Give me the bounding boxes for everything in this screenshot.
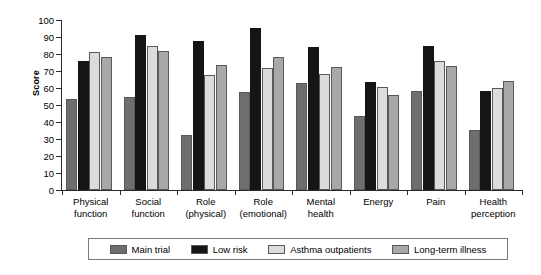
bar [204, 75, 215, 190]
y-axis-tick-label: 10 [32, 168, 54, 179]
bar [423, 46, 434, 191]
x-axis-tick [407, 190, 408, 195]
bar [66, 99, 77, 190]
x-axis-tick [235, 190, 236, 195]
bar [308, 47, 319, 190]
x-axis-tick-label: Energy [350, 196, 408, 208]
x-axis-tick [62, 190, 63, 195]
y-axis-tick-label: 20 [32, 151, 54, 162]
y-axis-tick [56, 54, 62, 55]
legend-swatch-icon [191, 245, 208, 254]
x-axis-tick-label: Health perception [465, 196, 523, 220]
legend-swatch-icon [110, 245, 127, 254]
y-axis-tick-label: 50 [32, 100, 54, 111]
y-axis-tick-label: 40 [32, 117, 54, 128]
bar [377, 87, 388, 190]
bar-group [124, 20, 170, 190]
x-axis-tick-label: Social function [120, 196, 178, 220]
y-axis-tick [56, 105, 62, 106]
grouped-bar-chart: Score 1009080706050403020100 Physical fu… [0, 0, 541, 275]
chart-legend: Main trialLow riskAsthma outpatientsLong… [88, 238, 508, 260]
bar [411, 91, 422, 190]
bar [492, 88, 503, 190]
bar [503, 81, 514, 190]
bar-group [354, 20, 400, 190]
bar [273, 57, 284, 190]
x-axis-tick-label: Role (emotional) [235, 196, 293, 220]
y-axis-tick-label: 30 [32, 134, 54, 145]
x-axis-tick [177, 190, 178, 195]
x-axis-tick [120, 190, 121, 195]
x-axis-tick-label: Mental health [292, 196, 350, 220]
legend-swatch-icon [268, 245, 285, 254]
y-axis-tick-label: 80 [32, 49, 54, 60]
y-axis-tick [56, 156, 62, 157]
x-axis-labels: Physical functionSocial functionRole (ph… [62, 196, 522, 234]
bar [480, 91, 491, 190]
bar [365, 82, 376, 190]
bar [124, 97, 135, 190]
legend-label: Asthma outpatients [290, 244, 371, 255]
x-axis-tick [350, 190, 351, 195]
bar [388, 95, 399, 190]
legend-label: Low risk [213, 244, 248, 255]
bar [250, 28, 261, 190]
bar [89, 52, 100, 190]
x-axis-tick [292, 190, 293, 195]
y-axis-tick-label: 100 [32, 15, 54, 26]
bar [216, 65, 227, 190]
bar [147, 46, 158, 191]
bar [193, 41, 204, 190]
bar-group [411, 20, 457, 190]
bar-group [66, 20, 112, 190]
bar [354, 116, 365, 190]
bar-group [469, 20, 515, 190]
y-axis-tick [56, 20, 62, 21]
y-axis-tick [56, 139, 62, 140]
y-axis-tick [56, 37, 62, 38]
y-axis-tick-label: 60 [32, 83, 54, 94]
bar [78, 61, 89, 190]
bar [319, 74, 330, 190]
bar [262, 68, 273, 190]
bar [296, 83, 307, 190]
bar [331, 67, 342, 190]
y-axis-tick [56, 71, 62, 72]
y-axis-tick-label: 90 [32, 32, 54, 43]
bar-group [296, 20, 342, 190]
y-axis-tick-label: 70 [32, 66, 54, 77]
x-axis-tick-label: Pain [407, 196, 465, 208]
bar-group [181, 20, 227, 190]
bar [434, 61, 445, 190]
x-axis-tick [465, 190, 466, 195]
legend-item: Main trial [110, 244, 171, 255]
y-axis-tick-label: 0 [32, 185, 54, 196]
x-axis-tick [522, 190, 523, 195]
y-axis-tick [56, 122, 62, 123]
bar [181, 135, 192, 190]
bar [469, 130, 480, 190]
legend-item: Long-term illness [392, 244, 486, 255]
bar [446, 66, 457, 190]
plot-area: 1009080706050403020100 [62, 20, 522, 190]
bar [101, 57, 112, 190]
bar [158, 51, 169, 190]
legend-item: Low risk [191, 244, 248, 255]
bar-group [239, 20, 285, 190]
x-axis-tick-label: Physical function [62, 196, 120, 220]
bar [239, 92, 250, 190]
legend-label: Main trial [132, 244, 171, 255]
legend-label: Long-term illness [414, 244, 486, 255]
y-axis-tick [56, 88, 62, 89]
x-axis-tick-label: Role (physical) [177, 196, 235, 220]
y-axis-tick [56, 173, 62, 174]
legend-swatch-icon [392, 245, 409, 254]
bar [135, 35, 146, 190]
legend-item: Asthma outpatients [268, 244, 371, 255]
